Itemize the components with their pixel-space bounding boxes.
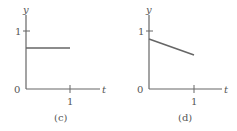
panel-label-d: (d) [178, 112, 192, 123]
panel-label-c: (c) [54, 112, 68, 123]
chart-d: y 1 0 1 t (d) [137, 4, 229, 123]
x-axis-label: t [224, 84, 229, 95]
figure: y 1 0 1 t (c) y 1 0 1 t (d) [0, 0, 237, 131]
origin-label: 0 [137, 84, 143, 95]
chart-c: y 1 0 1 t (c) [14, 4, 107, 123]
y-axis-label: y [22, 4, 29, 15]
x-axis-label: t [102, 84, 107, 95]
y-axis-label: y [145, 4, 152, 15]
origin-label: 0 [14, 84, 20, 95]
y-tick-label-1: 1 [138, 26, 144, 37]
x-tick-label-1: 1 [67, 96, 73, 107]
data-line [149, 39, 194, 55]
x-tick-label-1: 1 [191, 96, 197, 107]
y-tick-label-1: 1 [15, 26, 21, 37]
